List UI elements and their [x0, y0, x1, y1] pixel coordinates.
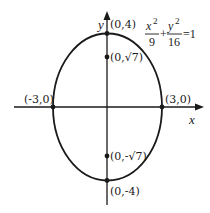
right-covertex-point: [160, 105, 165, 110]
eq-y-exp: 2: [175, 16, 180, 26]
top-vertex-point: [105, 31, 110, 36]
eq-x-term: x: [145, 19, 152, 33]
y-axis-label: y: [96, 17, 104, 32]
eq-x-den: 9: [149, 35, 155, 49]
left-covertex-label: (-3,0): [24, 93, 54, 106]
eq-rhs: =1: [183, 27, 196, 41]
bottom-vertex-label: (0,-4): [110, 185, 140, 198]
focus-top-label: (0,√7): [110, 51, 143, 64]
x-axis-label: x: [188, 112, 195, 127]
eq-y-term: y: [167, 19, 174, 33]
ellipse-diagram: y x (0,4) (0,√7) (-3,0) (3,0) (0,-√7) (0…: [0, 0, 210, 213]
eq-plus: +: [160, 27, 167, 41]
ellipse-equation: x 2 9 + y 2 16 =1: [145, 16, 196, 49]
x-axis-arrow-icon: [195, 104, 204, 111]
bottom-vertex-point: [105, 178, 110, 183]
eq-y-den: 16: [168, 35, 180, 49]
eq-x-exp: 2: [153, 16, 158, 26]
focus-bottom-label: (0,-√7): [110, 150, 147, 163]
focus-bottom-point: [105, 154, 110, 159]
top-vertex-label: (0,4): [110, 18, 136, 31]
right-covertex-label: (3,0): [165, 93, 191, 106]
focus-top-point: [105, 55, 110, 60]
